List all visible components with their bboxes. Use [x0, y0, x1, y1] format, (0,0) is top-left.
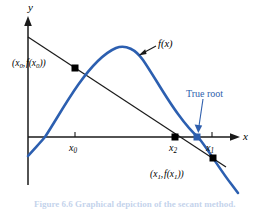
y-axis: [24, 16, 32, 185]
tick-label-x1: x1: [206, 143, 214, 155]
tick-label-x2: x2: [169, 143, 177, 155]
x-axis-label: x: [243, 131, 248, 142]
point-x0-label: (x0, f(x0)): [12, 59, 46, 70]
function-curve: [28, 47, 238, 193]
marker-true-root: [194, 134, 201, 141]
true-root-annotation-arrow: [195, 99, 203, 133]
figure-secant-method: y x f(x) (x0, f(x0)) (x1, f(x1)) x0 x2 x…: [0, 0, 256, 210]
tick-label-x0: x0: [69, 143, 77, 155]
marker-point-x1: [210, 155, 217, 162]
fx-annotation-arrow: [139, 46, 157, 55]
figure-canvas: [0, 0, 256, 210]
point-x1-label: (x1, f(x1)): [150, 170, 184, 181]
figure-caption-strip: Figure 6.6 Graphical depiction of the se…: [0, 198, 256, 210]
x-axis: [28, 133, 240, 141]
secant-line: [28, 37, 226, 167]
marker-point-x2: [172, 134, 179, 141]
figure-caption: Figure 6.6 Graphical depiction of the se…: [34, 199, 236, 209]
marker-point-x0: [72, 65, 79, 72]
true-root-label: True root: [186, 89, 223, 99]
y-axis-label: y: [28, 2, 33, 13]
function-label: f(x): [158, 39, 173, 50]
